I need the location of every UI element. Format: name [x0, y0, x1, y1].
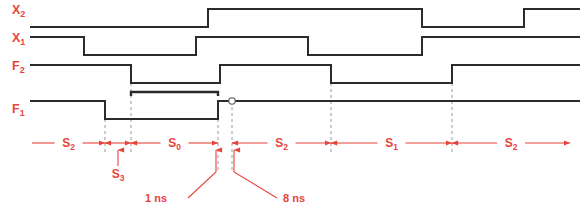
state-label-base: S: [62, 136, 70, 150]
signal-label-f1: F1: [12, 102, 25, 118]
state-label-subscript: 1: [393, 142, 398, 152]
signal-label-subscript: 2: [20, 65, 25, 75]
signal-label-x1: X1: [12, 31, 25, 47]
state-span-s0-2: S0: [131, 136, 218, 152]
callout-eight-ns: 8 ns: [234, 150, 305, 204]
glitch-marker-group: [229, 98, 235, 104]
callout-label: 1 ns: [145, 192, 167, 204]
state-label-subscript: 2: [283, 142, 288, 152]
state-label-base: S: [505, 136, 513, 150]
callout-label: 8 ns: [283, 192, 305, 204]
callout-label: S3: [112, 167, 125, 183]
callout-label-base: S: [112, 167, 120, 181]
signal-label-f2: F2: [12, 59, 25, 75]
glitch-marker-icon: [229, 98, 235, 104]
state-label-subscript: 2: [70, 142, 75, 152]
waveforms-group: [30, 9, 580, 119]
callouts-group: S31 ns8 ns: [112, 150, 305, 204]
state-label: S0: [168, 136, 181, 152]
signal-label-subscript: 1: [20, 37, 25, 47]
state-span-s2-5: S2: [452, 136, 570, 152]
callout-leader: [188, 150, 216, 198]
state-label-base: S: [275, 136, 283, 150]
state-span-s2-0: S2: [32, 136, 105, 152]
state-span-s2-3: S2: [232, 136, 331, 152]
callout-s3: S3: [112, 150, 125, 183]
state-label: S2: [505, 136, 518, 152]
signal-label-subscript: 2: [20, 9, 25, 19]
waveform-x1: [30, 37, 580, 55]
callout-one-ns: 1 ns: [145, 150, 216, 204]
bracket-group: [131, 92, 218, 96]
gridlines-group: [105, 83, 452, 172]
state-label: S2: [62, 136, 75, 152]
timing-diagram-svg: X2X1F2F1 S2S0S2S1S2 S31 ns8 ns: [0, 0, 588, 215]
waveform-f2: [30, 65, 580, 83]
waveform-x2: [30, 9, 580, 27]
state-label: S2: [275, 136, 288, 152]
timing-diagram-figure: X2X1F2F1 S2S0S2S1S2 S31 ns8 ns: [0, 0, 588, 215]
callout-leader: [234, 150, 277, 198]
signal-labels-group: X2X1F2F1: [12, 3, 25, 118]
f1-pulse-bracket: [131, 92, 218, 96]
signal-label-x2: X2: [12, 3, 25, 19]
signal-label-subscript: 1: [20, 108, 25, 118]
state-label-subscript: 2: [513, 142, 518, 152]
state-label-base: S: [168, 136, 176, 150]
state-label-subscript: 0: [176, 142, 181, 152]
state-label-base: S: [385, 136, 393, 150]
state-spans-group: S2S0S2S1S2: [32, 136, 570, 152]
callout-label-subscript: 3: [120, 173, 125, 183]
state-span-s1-4: S1: [331, 136, 452, 152]
waveform-f1: [30, 101, 580, 119]
state-label: S1: [385, 136, 398, 152]
